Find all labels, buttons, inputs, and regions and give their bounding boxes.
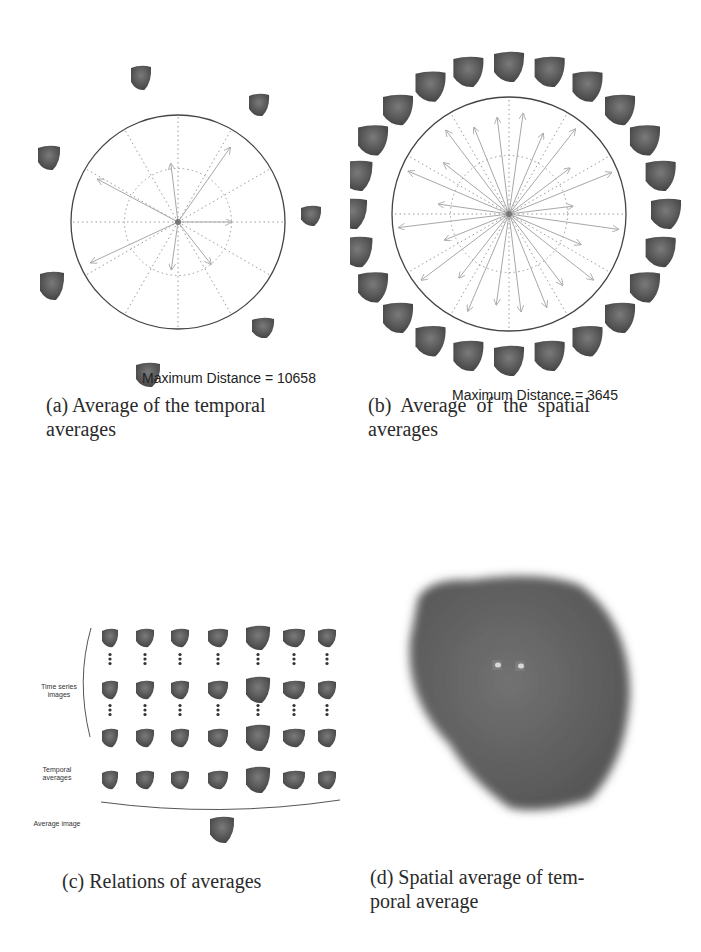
label-temporal-averages: Temporal averages xyxy=(32,766,82,782)
caption-c: (c) Relations of averages xyxy=(62,869,261,893)
heart-blob-icon xyxy=(246,677,270,703)
heart-blob-icon xyxy=(208,629,228,647)
panel-a: Maximum Distance = 10658 xyxy=(0,0,350,400)
heart-blob-icon xyxy=(350,199,367,229)
heart-blob-icon xyxy=(102,771,118,789)
heart-blob-icon xyxy=(383,303,413,333)
heart-blob-icon xyxy=(102,681,118,699)
heart-blob-icon xyxy=(358,272,388,302)
heart-blob-icon xyxy=(171,681,189,699)
heart-blob-icon xyxy=(573,71,603,101)
heart-blob-icon xyxy=(171,629,189,647)
heart-blob-icon xyxy=(283,629,305,647)
heart-blob-icon xyxy=(210,817,234,843)
heart-blob-icon xyxy=(171,771,189,789)
panel-c: Time series images Temporal averages Ave… xyxy=(0,600,350,860)
heart-blob-icon xyxy=(102,629,118,647)
heart-blob-icon xyxy=(252,318,274,338)
heart-blob-icon xyxy=(208,729,228,747)
heart-blob-icon xyxy=(283,681,305,699)
caption-a-line2: averages xyxy=(46,417,266,441)
heart-blob-icon xyxy=(318,729,336,747)
heart-blob-icon xyxy=(249,94,269,116)
heart-blob-icon xyxy=(358,125,388,155)
heart-blob-icon xyxy=(136,771,154,789)
heart-blob-icon xyxy=(646,237,676,267)
heart-blob-icon xyxy=(246,725,270,751)
heart-blob-icon xyxy=(131,66,151,90)
heart-blob-icon xyxy=(651,199,681,229)
heart-blob-icon xyxy=(301,206,321,226)
heart-blob-icon xyxy=(573,326,603,356)
heart-blob-icon xyxy=(453,57,483,87)
heart-blob-icon xyxy=(318,629,336,647)
heart-blob-icon xyxy=(246,767,270,793)
heart-blob-icon xyxy=(416,71,446,101)
caption-c-line1: (c) Relations of averages xyxy=(62,869,261,893)
caption-d-line2: poral average xyxy=(370,889,584,913)
heart-blob-icon xyxy=(494,346,524,376)
max-distance-a: Maximum Distance = 10658 xyxy=(142,370,316,386)
heart-blob-icon xyxy=(630,272,660,302)
panel-b: Maximum Distance = 3645 xyxy=(350,0,701,400)
heart-blob-icon xyxy=(102,729,118,747)
heart-blob-icon xyxy=(246,626,270,650)
label-average-image: Average image xyxy=(32,820,82,828)
label-time-series: Time series images xyxy=(36,683,82,699)
heart-blob-icon xyxy=(171,729,189,747)
caption-d-line1: (d) Spatial average of tem- xyxy=(370,865,584,889)
heart-blob-icon xyxy=(38,146,60,170)
spatial-average-blob-icon xyxy=(410,576,631,810)
panel-d xyxy=(350,540,701,840)
spatial-average-image xyxy=(350,540,701,840)
heart-blob-icon xyxy=(416,326,446,356)
heart-blob-icon xyxy=(350,161,372,191)
polar-plot-a xyxy=(0,0,350,400)
heart-blob-icon xyxy=(646,161,676,191)
heart-blob-icon xyxy=(383,95,413,125)
polar-plot-b xyxy=(350,0,701,400)
heart-blob-icon xyxy=(605,95,635,125)
heart-blob-icon xyxy=(630,125,660,155)
heart-blob-icon xyxy=(453,341,483,371)
caption-a: (a) Average of the temporal averages xyxy=(46,393,266,441)
heart-blob-icon xyxy=(136,629,154,647)
caption-b-line2: averages xyxy=(368,417,668,441)
heart-blob-icon xyxy=(494,52,524,82)
heart-blob-icon xyxy=(283,771,305,789)
heart-blob-icon xyxy=(208,771,228,789)
heart-blob-icon xyxy=(208,681,228,699)
heart-blob-icon xyxy=(535,341,565,371)
caption-d: (d) Spatial average of tem- poral averag… xyxy=(370,865,584,913)
heart-blob-icon xyxy=(40,272,64,300)
heart-blob-icon xyxy=(318,681,336,699)
heart-blob-icon xyxy=(318,771,336,789)
heart-blob-icon xyxy=(605,303,635,333)
caption-b: (b) Average of the spatial averages xyxy=(368,393,668,441)
heart-blob-icon xyxy=(136,729,154,747)
heart-blob-icon xyxy=(283,729,305,747)
heart-blob-icon xyxy=(350,237,372,267)
heart-blob-icon xyxy=(136,681,154,699)
caption-a-line1: (a) Average of the temporal xyxy=(46,393,266,417)
caption-b-line1: (b) Average of the spatial xyxy=(368,393,668,417)
heart-blob-icon xyxy=(535,57,565,87)
